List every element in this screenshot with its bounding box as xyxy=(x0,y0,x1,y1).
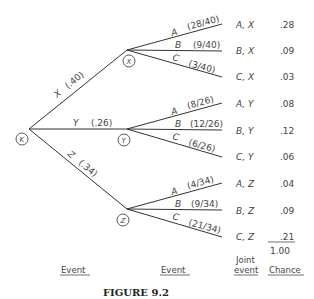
svg-text:A, Z: A, Z xyxy=(235,179,255,189)
svg-text:A, X: A, X xyxy=(235,20,255,30)
svg-text:B, Z: B, Z xyxy=(236,206,255,216)
total-chance: 1.00 xyxy=(270,246,290,256)
header-joint-event: event xyxy=(234,265,259,275)
header-joint: Joint xyxy=(235,255,255,265)
svg-text:C, Z: C, Z xyxy=(236,232,255,242)
svg-text:(3/40): (3/40) xyxy=(187,58,216,75)
svg-text:B: B xyxy=(175,40,181,50)
svg-text:.21: .21 xyxy=(280,232,294,242)
svg-text:.12: .12 xyxy=(280,126,294,136)
node-k-label: K xyxy=(20,136,26,144)
branch-z xyxy=(29,129,127,209)
svg-text:B: B xyxy=(175,199,181,209)
svg-text:A: A xyxy=(169,186,179,198)
svg-text:.08: .08 xyxy=(280,99,295,109)
svg-text:C: C xyxy=(171,211,180,222)
svg-text:B, Y: B, Y xyxy=(236,126,255,136)
branch-z-label: Z xyxy=(65,148,78,161)
branch-y-prob: (.26) xyxy=(91,118,112,128)
node-y-label: Y xyxy=(122,137,127,145)
branch-z-prob: (.34) xyxy=(77,158,100,179)
figure-caption: FIGURE 9.2 xyxy=(103,287,169,298)
svg-text:C, Y: C, Y xyxy=(236,152,255,162)
svg-text:.04: .04 xyxy=(280,179,295,189)
header-chance: Chance xyxy=(269,265,301,275)
svg-text:(9/34): (9/34) xyxy=(191,199,218,209)
header-event-2: Event xyxy=(161,265,186,275)
branch-y-label: Y xyxy=(73,118,80,128)
svg-text:(12/26): (12/26) xyxy=(190,119,223,129)
svg-text:C, X: C, X xyxy=(236,72,255,82)
svg-text:.09: .09 xyxy=(280,206,295,216)
svg-text:A, Y: A, Y xyxy=(235,99,255,109)
svg-text:(9/40): (9/40) xyxy=(193,40,220,50)
branch-x-prob: (.40) xyxy=(63,70,86,91)
probability-tree-diagram: K X Y Z X (.40) Y (.26) Z (.34) A (28/40… xyxy=(0,0,314,299)
svg-text:C: C xyxy=(171,52,180,63)
svg-text:B, X: B, X xyxy=(236,46,255,56)
svg-text:B: B xyxy=(175,119,181,129)
svg-text:(21/34): (21/34) xyxy=(187,217,221,235)
svg-text:A: A xyxy=(169,106,179,118)
svg-text:.06: .06 xyxy=(280,152,295,162)
svg-text:A: A xyxy=(169,27,179,39)
branch-x-label: X xyxy=(51,87,64,100)
svg-text:C: C xyxy=(171,131,180,142)
header-event-1: Event xyxy=(61,265,86,275)
node-z-label: Z xyxy=(120,217,126,225)
svg-text:.03: .03 xyxy=(280,72,294,82)
svg-text:.09: .09 xyxy=(280,46,295,56)
node-x-label: X xyxy=(126,58,132,66)
svg-text:.28: .28 xyxy=(280,20,295,30)
